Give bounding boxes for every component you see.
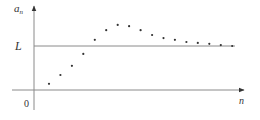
data-point-11 <box>162 37 164 39</box>
limit-label: L <box>14 39 22 53</box>
data-point-13 <box>185 41 187 43</box>
data-point-4 <box>82 53 84 55</box>
data-point-17 <box>231 45 233 47</box>
data-point-8 <box>128 25 130 27</box>
data-point-10 <box>151 34 153 36</box>
x-axis-label: n <box>239 95 244 106</box>
data-point-12 <box>174 39 176 41</box>
data-point-2 <box>59 74 61 76</box>
data-point-1 <box>48 83 50 85</box>
y-axis-label: an <box>14 2 24 16</box>
data-point-6 <box>105 29 107 31</box>
data-point-7 <box>117 24 119 26</box>
data-point-16 <box>220 44 222 46</box>
origin-label: 0 <box>24 98 29 109</box>
data-point-15 <box>208 43 210 45</box>
sequence-limit-chart: an n L 0 <box>0 0 260 120</box>
y-axis-label-subscript: n <box>20 8 24 16</box>
data-point-9 <box>140 29 142 31</box>
data-points <box>48 24 233 85</box>
data-point-14 <box>197 42 199 44</box>
data-point-3 <box>71 65 73 67</box>
data-point-5 <box>94 39 96 41</box>
